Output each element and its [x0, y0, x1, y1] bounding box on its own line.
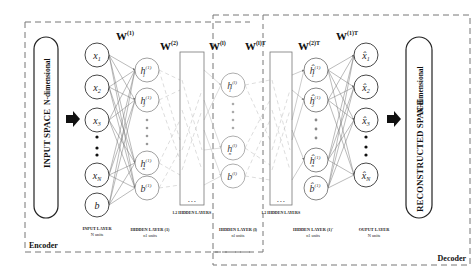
connections-hiddenl-block — [245, 80, 290, 180]
input-layer-dots — [95, 135, 98, 156]
hiddenl-layer-label: HIDDEN LAYER (l) — [219, 227, 258, 232]
input-space-title: INPUT SPACE — [42, 109, 52, 168]
input-space-subtitle: N-dimensional — [43, 58, 52, 105]
svg-text:W(2): W(2) — [160, 40, 178, 52]
hidden1prime-layer-label: HIDDEN LAYER (1)' — [293, 227, 333, 232]
hidden-block-decoder-ellipsis: • • • — [277, 199, 285, 204]
hidden-block-encoder: • • • l-2 HIDDEN LAYERS — [173, 52, 212, 215]
hidden1-dots — [146, 119, 149, 146]
hidden1prime-dots — [315, 119, 318, 140]
svg-text:W(l): W(l) — [209, 40, 226, 52]
weight-labels: W(1) W(2) W(l) W(l)T W(2)T W(1)T — [116, 30, 358, 52]
decoder-label: Decoder — [438, 254, 467, 263]
connections-hidden1prime-output — [328, 55, 354, 188]
connections-input-hidden1 — [109, 55, 135, 205]
input-layer — [85, 43, 109, 217]
input-layer-label: INPUT LAYER — [82, 226, 112, 231]
hiddenl-dots — [232, 103, 235, 130]
svg-text:W(2)T: W(2)T — [298, 40, 320, 52]
output-arrow-icon — [387, 111, 401, 127]
reconstructed-space-pill: RECONSTRUCTED SPACE N-dimensional — [406, 37, 432, 218]
hiddenl-layer-units: nl units — [232, 233, 245, 238]
hidden1-layer-units: n1 units — [143, 233, 157, 238]
autoencoder-diagram: INPUT SPACE N-dimensional RECONSTRUCTED … — [0, 0, 472, 280]
svg-text:W(1)T: W(1)T — [336, 30, 358, 42]
connections-hidden1-block — [159, 70, 202, 188]
hidden-block-decoder: • • • l-2 HIDDEN LAYERS — [262, 52, 301, 215]
layer-captions: INPUT LAYER N units HIDDEN LAYER (1) n1 … — [82, 226, 390, 238]
encoder-label: Encoder — [29, 241, 58, 250]
hidden1prime-layer-units: n1 units — [306, 233, 320, 238]
hidden-block-encoder-ellipsis: • • • — [188, 199, 196, 204]
output-dots — [364, 135, 367, 156]
hidden1-layer-label: HIDDEN LAYER (1) — [131, 227, 171, 232]
svg-text:W(1): W(1) — [116, 30, 134, 42]
input-layer-units: N units — [91, 232, 104, 237]
connections-block-hidden1prime — [292, 70, 304, 180]
reconstructed-space-title: RECONSTRUCTED SPACE — [415, 99, 425, 212]
hidden-block-encoder-label: l-2 HIDDEN LAYERS — [173, 210, 212, 215]
reconstructed-space-subtitle: N-dimensional — [416, 66, 425, 113]
output-layer-units: N units — [368, 233, 381, 238]
svg-text:b: b — [95, 200, 100, 211]
input-arrow-icon — [66, 111, 80, 127]
hidden-block-decoder-label: l-2 HIDDEN LAYERS — [262, 210, 301, 215]
encoder-region — [25, 22, 250, 252]
output-layer-label: OUPUT LAYER — [359, 227, 391, 232]
input-space-pill: INPUT SPACE N-dimensional — [34, 37, 58, 218]
